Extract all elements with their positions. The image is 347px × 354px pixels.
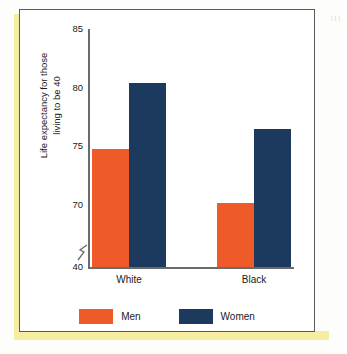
bar-chart: Life expectancy for those living to be 4… [19, 9, 315, 332]
y-axis-tick-80: 80 [57, 82, 83, 93]
page-edge-highlight-bottom [14, 331, 329, 340]
y-axis-line [88, 29, 90, 268]
x-axis-label-white: White [89, 274, 169, 285]
x-axis-label-black: Black [214, 274, 294, 285]
x-axis-line [88, 267, 294, 269]
page-margin-marks: | | | [331, 14, 345, 74]
y-axis-tick-75: 75 [57, 140, 83, 151]
bar-white-women [129, 83, 166, 267]
legend-swatch-women [179, 309, 213, 324]
legend-label-men: Men [121, 311, 140, 322]
legend-entry-men: Men [79, 309, 140, 324]
y-axis-title-line-1: Life expectancy for those [38, 21, 51, 191]
bar-white-men [92, 149, 129, 267]
bar-black-men [217, 203, 254, 267]
y-axis-tick-40: 40 [57, 261, 83, 272]
legend-swatch-men [79, 309, 113, 324]
legend-label-women: Women [221, 311, 255, 322]
y-axis-tick-70: 70 [57, 199, 83, 210]
y-axis-tick-85: 85 [57, 23, 83, 34]
legend-entry-women: Women [179, 309, 255, 324]
legend: MenWomen [19, 309, 315, 324]
y-axis-title: Life expectancy for those living to be 4… [38, 21, 63, 191]
bar-black-women [254, 129, 291, 267]
y-axis-title-line-2: living to be 40 [50, 21, 63, 191]
